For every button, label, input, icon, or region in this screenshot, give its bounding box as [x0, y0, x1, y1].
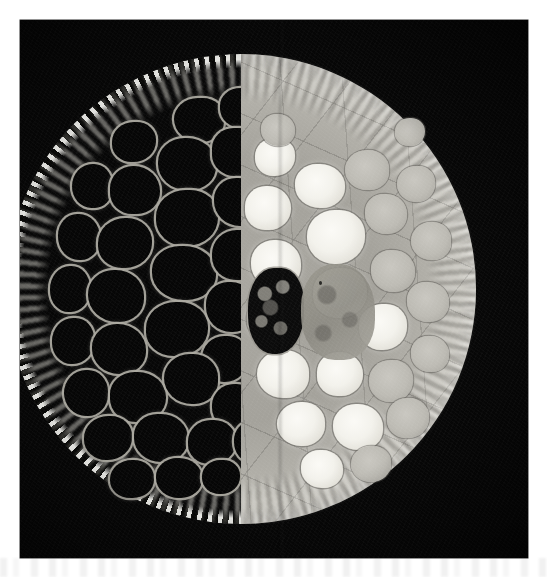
parenchyma-cell-dark: [98, 218, 152, 268]
parenchyma-lumen-shaded: [411, 222, 451, 260]
parenchyma-cell-dark: [158, 138, 216, 190]
parenchyma-cell-dark: [146, 302, 208, 356]
parenchyma-cell-dark: [58, 214, 100, 260]
specimen-half-left-darkfield: [20, 54, 241, 524]
parenchyma-lumen-shaded: [261, 114, 295, 146]
parenchyma-cell-dark: [52, 318, 94, 364]
central-vascular-bundle-right: [301, 264, 375, 360]
parenchyma-cell-dark: [188, 420, 236, 464]
parenchyma-lumen-shaded: [387, 398, 429, 438]
parenchyma-cell-dark: [110, 166, 160, 214]
parenchyma-lumen-bright: [333, 404, 383, 450]
parenchyma-cell-dark: [50, 266, 90, 312]
micrograph-plate: [20, 20, 528, 558]
parenchyma-lumen-shaded: [371, 250, 415, 292]
dust-fleck-artifact: [319, 281, 322, 285]
parenchyma-lumen-shaded: [407, 282, 449, 322]
parenchyma-cell-dark: [156, 458, 202, 498]
left-half-base: [20, 54, 241, 524]
parenchyma-lumen-shaded: [369, 360, 413, 402]
parenchyma-lumen-bright: [245, 186, 291, 230]
parenchyma-lumen-shaded: [365, 194, 407, 234]
parenchyma-lumen-bright: [257, 350, 309, 398]
parenchyma-lumen-shaded: [397, 166, 435, 202]
specimen-disc: [20, 54, 476, 524]
parenchyma-lumen-shaded: [351, 446, 391, 482]
parenchyma-cell-dark: [202, 460, 240, 494]
parenchyma-cell-dark: [164, 354, 218, 404]
parenchyma-lumen-bright: [295, 164, 345, 208]
figure-page: [0, 0, 547, 577]
parenchyma-cell-dark: [156, 190, 218, 246]
parenchyma-cell-dark: [72, 164, 112, 208]
parenchyma-cell-dark: [64, 370, 108, 416]
parenchyma-cell-dark: [134, 414, 188, 462]
central-vascular-bundle-left: [248, 268, 304, 354]
parenchyma-cell-dark: [84, 416, 132, 460]
scan-ghost-text-band: [0, 558, 547, 577]
parenchyma-cell-dark: [92, 324, 146, 374]
parenchyma-lumen-bright: [301, 450, 343, 488]
parenchyma-lumen-shaded: [395, 118, 425, 146]
parenchyma-lumen-shaded: [411, 336, 449, 372]
parenchyma-cell-dark: [110, 460, 154, 498]
parenchyma-lumen-shaded: [345, 150, 389, 190]
parenchyma-lumen-bright: [277, 402, 325, 446]
parenchyma-cell-dark: [152, 246, 216, 300]
parenchyma-lumen-bright: [307, 210, 365, 264]
parenchyma-cell-dark: [88, 270, 144, 322]
